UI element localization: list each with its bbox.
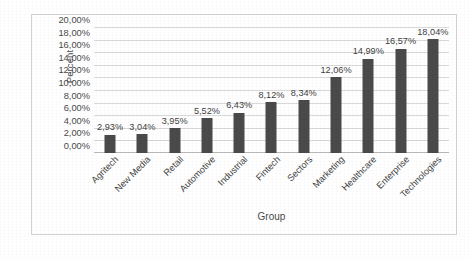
x-axis-tick-label-text: Industrial [217,155,250,188]
bar-chart: Percent 0,00%2,00%4,00%6,00%8,00%10,00%1… [31,14,457,235]
bar-data-label: 3,04% [129,123,155,132]
bar-data-label: 8,34% [291,89,317,98]
y-axis-tick-label: 16,00% [44,42,90,51]
y-axis-tick-label: 6,00% [44,105,90,114]
bar[interactable] [105,135,116,153]
x-axis-tick-label-text: Fintech [254,155,282,183]
plot-area: 2,93%3,04%3,95%5,52%6,43%8,12%8,34%12,06… [94,27,449,153]
bar[interactable] [427,39,438,153]
y-axis-tick-label: 10,00% [44,79,90,88]
y-axis-tick-label: 0,00% [44,142,90,151]
y-axis-tick-label: 12,00% [44,67,90,76]
y-axis-tick-label: 4,00% [44,117,90,126]
x-axis-tick-label-text: Retail [162,155,185,178]
bar[interactable] [266,102,277,153]
y-axis-tick-label: 8,00% [44,92,90,101]
x-axis-title: Group [94,211,449,222]
bar-slot: 2,93% [94,27,126,153]
bar[interactable] [201,118,212,153]
x-axis-tick-label-text: Sectors [286,155,315,184]
y-axis-tick-label: 18,00% [44,29,90,38]
bar-slot: 3,95% [159,27,191,153]
bar-data-label: 6,43% [226,101,252,110]
bar-slot: 8,12% [255,27,287,153]
y-axis-tick-label: 2,00% [44,130,90,139]
bar[interactable] [298,100,309,153]
bar-data-label: 12,06% [320,66,351,75]
bar[interactable] [137,134,148,153]
bar-slot: 8,34% [288,27,320,153]
x-axis-tick-label-text: Agritech [90,155,120,185]
bar[interactable] [234,113,245,154]
bar-data-label: 8,12% [258,91,284,100]
bar-slot: 12,06% [320,27,352,153]
bar-data-label: 3,95% [162,117,188,126]
bar-slot: 14,99% [352,27,384,153]
x-axis-tick-labels: AgritechNew MediaRetailAutomotiveIndustr… [94,155,449,213]
bar-slot: 18,04% [417,27,449,153]
bar-slot: 16,57% [384,27,416,153]
bar-data-label: 16,57% [385,37,416,46]
bar-slot: 6,43% [223,27,255,153]
bar[interactable] [169,128,180,153]
bar-slot: 5,52% [191,27,223,153]
y-axis-tick-label: 20,00% [44,16,90,25]
bar-data-label: 14,99% [353,47,384,56]
bar-data-label: 18,04% [417,28,448,37]
y-axis-tick-label: 14,00% [44,54,90,63]
bar-data-label: 5,52% [194,107,220,116]
y-axis-tick-labels: 0,00%2,00%4,00%6,00%8,00%10,00%12,00%14,… [44,21,90,147]
bar[interactable] [395,49,406,153]
bar[interactable] [331,77,342,153]
bar[interactable] [363,59,374,153]
bar-data-label: 2,93% [97,123,123,132]
bar-slot: 3,04% [126,27,158,153]
